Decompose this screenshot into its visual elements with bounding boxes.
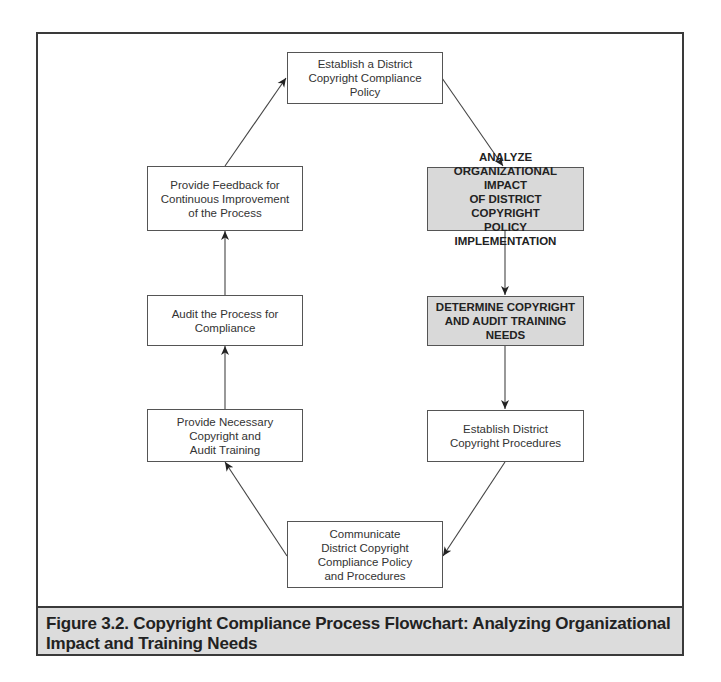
node-audit-process: Audit the Process for Compliance: [147, 295, 303, 346]
node-establish-policy: Establish a District Copyright Complianc…: [287, 52, 443, 104]
node-communicate: Communicate District Copyright Complianc…: [287, 521, 443, 588]
node-establish-procedures: Establish District Copyright Procedures: [427, 410, 584, 462]
node-determine-needs: DETERMINE COPYRIGHT AND AUDIT TRAINING N…: [427, 296, 584, 346]
arrow-communicate-to-training: [225, 462, 287, 556]
figure-caption: Figure 3.2. Copyright Compliance Process…: [36, 606, 684, 656]
node-provide-training: Provide Necessary Copyright and Audit Tr…: [147, 409, 303, 462]
arrow-procedures-to-communicate: [443, 462, 505, 556]
node-provide-feedback: Provide Feedback for Continuous Improvem…: [147, 166, 303, 231]
node-analyze-impact: ANALYZE ORGANIZATIONAL IMPACT OF DISTRIC…: [427, 167, 584, 231]
arrow-feedback-to-policy: [225, 78, 286, 166]
